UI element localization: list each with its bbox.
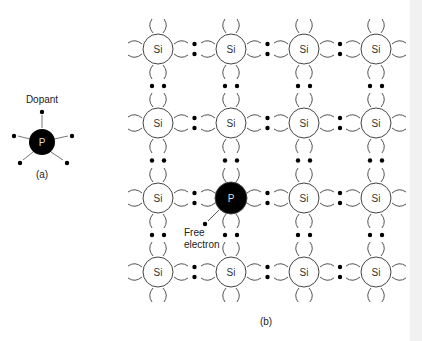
svg-text:Si: Si	[154, 118, 163, 129]
panel-b-caption: (b)	[260, 316, 272, 327]
svg-text:Si: Si	[300, 193, 309, 204]
silicon-atom: Si	[128, 93, 188, 153]
svg-text:Si: Si	[154, 193, 163, 204]
free-electron-label-2: electron	[184, 239, 220, 250]
doping-diagram: Dopant P (a) SiSiSiSiSiSiSiSiSiPSiSiSiSi…	[0, 0, 422, 341]
free-electron-label-1: Free	[184, 227, 205, 238]
svg-text:Si: Si	[300, 267, 309, 278]
panel-a-caption: (a)	[36, 169, 48, 180]
free-electron-annotation: Free electron	[184, 210, 220, 250]
silicon-atom: Si	[128, 242, 188, 302]
silicon-lattice: SiSiSiSiSiSiSiSiSiPSiSiSiSiSiSi	[128, 19, 406, 302]
svg-text:Si: Si	[154, 44, 163, 55]
silicon-atom: Si	[201, 19, 261, 79]
silicon-atom: Si	[274, 93, 334, 153]
svg-text:Si: Si	[227, 44, 236, 55]
silicon-atom: Si	[346, 19, 406, 79]
silicon-atom: Si	[274, 168, 334, 228]
svg-text:Si: Si	[154, 267, 163, 278]
silicon-atom: Si	[346, 168, 406, 228]
dopant-label: Dopant	[26, 94, 58, 105]
svg-text:P: P	[228, 193, 235, 204]
silicon-atom: Si	[346, 93, 406, 153]
silicon-atom: Si	[346, 242, 406, 302]
silicon-atom: Si	[201, 93, 261, 153]
svg-text:Si: Si	[372, 267, 381, 278]
svg-text:Si: Si	[227, 118, 236, 129]
panel-a: Dopant P (a)	[12, 94, 74, 180]
svg-text:Si: Si	[300, 118, 309, 129]
silicon-atom: Si	[274, 19, 334, 79]
svg-text:Si: Si	[372, 193, 381, 204]
silicon-atom: Si	[201, 242, 261, 302]
svg-text:Si: Si	[300, 44, 309, 55]
svg-text:Si: Si	[372, 44, 381, 55]
dopant-atom-a-symbol: P	[39, 137, 46, 148]
silicon-atom: Si	[128, 168, 188, 228]
free-electron-leader	[208, 210, 219, 221]
silicon-atom: Si	[274, 242, 334, 302]
silicon-atom: Si	[128, 19, 188, 79]
svg-text:Si: Si	[227, 267, 236, 278]
svg-text:Si: Si	[372, 118, 381, 129]
free-electron	[203, 222, 207, 226]
